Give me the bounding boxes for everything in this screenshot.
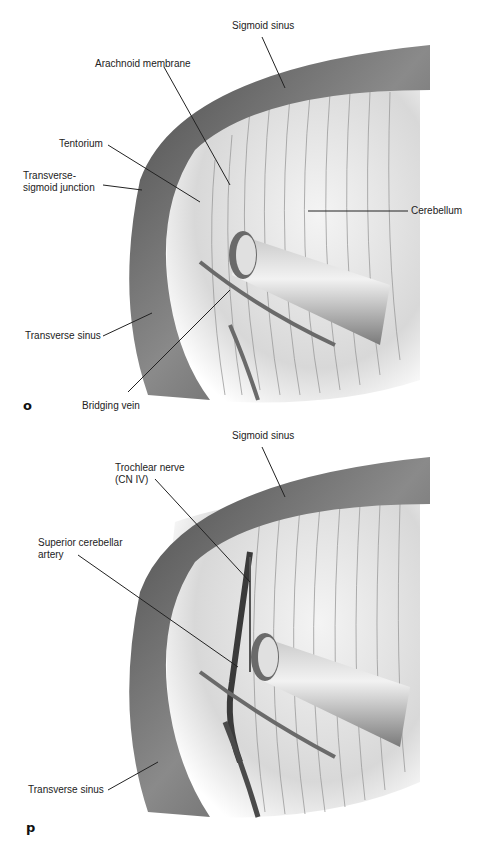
label-transverse-sinus: Transverse sinus bbox=[25, 330, 101, 342]
label-cerebellum: Cerebellum bbox=[411, 205, 462, 217]
illustration-o bbox=[0, 0, 477, 422]
label-transverse-sinus: Transverse sinus bbox=[28, 784, 104, 796]
illustration-p bbox=[0, 422, 477, 844]
panel-o: Sigmoid sinus Arachnoid membrane Tentori… bbox=[0, 0, 477, 422]
panel-p: Sigmoid sinus Trochlear nerve (CN IV) Su… bbox=[0, 422, 477, 844]
label-superior-cerebellar-artery: Superior cerebellar artery bbox=[38, 537, 123, 561]
label-transverse-sigmoid-junction: Transverse- sigmoid junction bbox=[23, 170, 95, 194]
panel-letter-p: p bbox=[26, 820, 35, 835]
panel-letter-o: o bbox=[23, 398, 32, 413]
label-tentorium: Tentorium bbox=[59, 138, 103, 150]
label-bridging-vein: Bridging vein bbox=[82, 400, 140, 412]
label-sigmoid-sinus: Sigmoid sinus bbox=[232, 20, 294, 32]
label-sigmoid-sinus: Sigmoid sinus bbox=[232, 430, 294, 442]
label-trochlear-nerve: Trochlear nerve (CN IV) bbox=[115, 462, 185, 486]
label-arachnoid-membrane: Arachnoid membrane bbox=[95, 58, 191, 70]
